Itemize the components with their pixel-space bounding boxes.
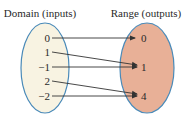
range-value: 4 [141, 90, 147, 102]
domain-value: −2 [38, 90, 50, 102]
domain-value: 2 [45, 75, 51, 87]
domain-value: 1 [45, 46, 51, 58]
domain-title: Domain (inputs) [4, 7, 77, 20]
mapping-svg: Domain (inputs) Range (outputs) 0 1 −1 2… [0, 0, 188, 118]
range-value: 0 [141, 32, 147, 44]
range-title: Range (outputs) [111, 7, 182, 20]
domain-value: 0 [45, 32, 51, 44]
function-mapping-diagram: Domain (inputs) Range (outputs) 0 1 −1 2… [0, 0, 188, 118]
domain-value: −1 [38, 61, 50, 73]
range-value: 1 [141, 61, 147, 73]
range-ellipse [120, 23, 174, 113]
